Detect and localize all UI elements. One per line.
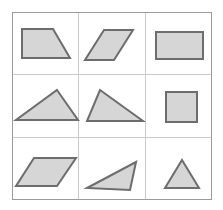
shape-cell-6 [166,92,197,122]
shape-cell-3 [156,32,203,59]
shape-grid-canvas [0,0,223,210]
shape-grid-figure [0,0,223,210]
